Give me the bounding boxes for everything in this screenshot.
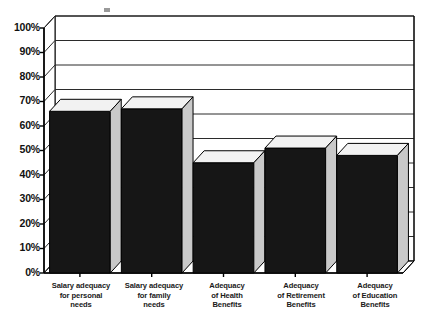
bar-front-face [121,109,182,273]
bar-front-face [337,155,398,273]
bar-side-face [397,143,408,273]
bar-top-face [337,143,409,155]
x-axis-label-line: Benefits [330,300,420,310]
x-axis-label-line: of Education [330,291,420,301]
bar-chart: 100% 90% 80% 70% 60% 50% 40% 30% 20% 10%… [0,0,427,324]
x-axis-label-line: Adequacy [330,281,420,291]
x-axis-category-labels: Salary adequacy for personal needs Salar… [0,281,427,324]
bar-side-face [182,97,193,273]
bar-top-face [121,97,193,109]
bar-front-face [193,163,254,273]
bar-side-face [326,136,337,273]
bar-top-face [265,136,337,148]
bar-top-face [193,151,265,163]
bar-top-face [50,99,122,111]
bar-front-face [265,148,326,273]
bar-side-face [254,151,265,273]
plot-area [0,0,427,324]
x-axis-label-4: Adequacy of Education Benefits [330,281,420,310]
bar-side-face [110,99,121,273]
bar-front-face [50,111,111,273]
